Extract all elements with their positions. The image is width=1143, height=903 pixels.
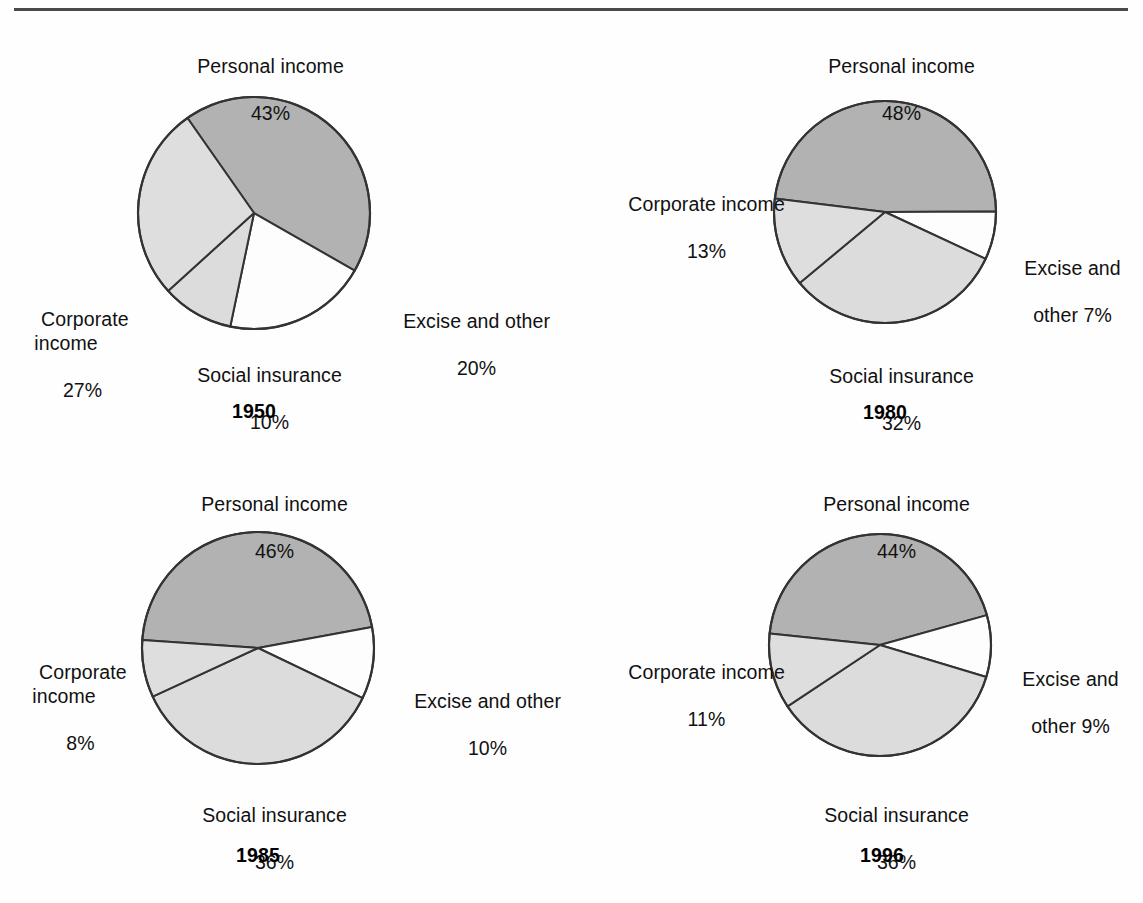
pie-1980-label-excise: Excise and other 7% xyxy=(982,233,1130,352)
label-text: Personal income xyxy=(197,55,344,77)
label-text: Personal income xyxy=(823,493,970,515)
label-value: 10% xyxy=(468,737,507,759)
label-text: Personal income xyxy=(828,55,975,77)
label-text: Excise and other xyxy=(414,690,561,712)
label-text: Social insurance xyxy=(829,365,974,387)
figure-canvas: Personal income 43% Corporateincome 27% … xyxy=(0,0,1143,903)
chart-pie-1985: Personal income 46% Corporateincome 8% S… xyxy=(0,452,572,903)
label-text: Corporateincome xyxy=(32,661,126,707)
pie-1980-label-personal: Personal income 48% xyxy=(745,31,1025,150)
pie-1950-label-corporate: Corporateincome 27% xyxy=(8,284,124,427)
label-value: other 9% xyxy=(1031,715,1110,737)
label-value: 11% xyxy=(688,708,726,730)
label-text: Personal income xyxy=(201,493,348,515)
pie-1980-year: 1980 xyxy=(825,401,945,424)
label-value: 20% xyxy=(457,357,496,379)
label-text: Social insurance xyxy=(202,804,347,826)
label-text: Excise and xyxy=(1022,668,1118,690)
pie-1996-label-personal: Personal income 44% xyxy=(740,469,1020,588)
label-text: Corporate income xyxy=(628,661,785,683)
pie-1950-year: 1950 xyxy=(194,400,314,423)
pie-1985-label-excise: Excise and other 10% xyxy=(370,666,572,785)
pie-1996-label-excise: Excise and other 9% xyxy=(980,644,1128,763)
pie-1950-label-excise: Excise and other 20% xyxy=(352,286,568,405)
pie-1980-label-corporate: Corporate income 13% xyxy=(588,169,792,288)
label-value: 43% xyxy=(251,102,290,124)
label-text: Social insurance xyxy=(824,804,969,826)
label-value: 8% xyxy=(66,732,94,754)
label-text: Social insurance xyxy=(197,364,342,386)
pie-1996-year: 1996 xyxy=(822,844,942,867)
pie-1985-label-personal: Personal income 46% xyxy=(118,469,398,588)
chart-pie-1950: Personal income 43% Corporateincome 27% … xyxy=(0,0,572,452)
label-value: 48% xyxy=(882,102,921,124)
label-text: Corporateincome xyxy=(34,308,128,354)
pie-1950-label-personal: Personal income 43% xyxy=(114,31,394,150)
label-text: Excise and other xyxy=(403,310,550,332)
pie-1985-label-social: Social insurance 36% xyxy=(143,780,373,899)
pie-1985-year: 1985 xyxy=(198,844,318,867)
label-value: 46% xyxy=(255,540,294,562)
pie-1985-label-corporate: Corporateincome 8% xyxy=(6,637,122,780)
label-value: 13% xyxy=(687,240,726,262)
chart-pie-1996: Personal income 44% Corporate income 11%… xyxy=(572,452,1143,903)
label-value: 27% xyxy=(63,379,102,401)
label-value: other 7% xyxy=(1033,304,1112,326)
label-text: Corporate income xyxy=(628,193,785,215)
pie-1996-label-social: Social insurance 36% xyxy=(765,780,995,899)
label-text: Excise and xyxy=(1024,257,1120,279)
chart-pie-1980: Personal income 48% Corporate income 13%… xyxy=(572,0,1143,452)
label-value: 44% xyxy=(877,540,916,562)
pie-1996-label-corporate: Corporate income 11% xyxy=(588,637,792,756)
